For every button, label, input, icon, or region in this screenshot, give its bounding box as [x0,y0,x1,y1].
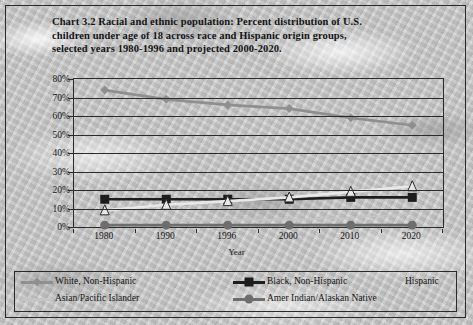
x-axis-tick-1996: 1996 [217,231,236,241]
data-point [408,193,417,202]
y-axis-tick-80pct: 80% [30,74,70,84]
y-tick-mark [68,172,73,173]
gridline [74,190,443,191]
y-axis-tick-0pct: 0% [30,222,70,232]
data-point [285,104,294,113]
chart-title-line-1: Chart 3.2 Racial and ethnic population: … [52,15,427,29]
x-tick-mark [258,229,259,233]
y-tick-mark [68,209,73,210]
x-axis-title: Year [0,247,473,257]
series-asian-pacific-islander [105,214,413,223]
data-point [346,113,355,122]
data-point [223,100,232,109]
x-tick-mark [196,229,197,233]
gridline [74,209,443,210]
data-point [100,86,109,95]
y-tick-mark [68,227,73,228]
x-tick-mark [73,229,74,233]
data-point [408,121,417,130]
data-point [100,195,109,204]
data-point [223,221,232,230]
chart-title-line-2: children under age of 18 across race and… [52,29,427,43]
y-axis-tick-30pct: 30% [30,167,70,177]
y-axis-tick-50pct: 50% [30,130,70,140]
x-axis-tick-1980: 1980 [94,231,113,241]
x-axis-tick-labels: 198019901996200020102020 [73,231,444,247]
series-white-non-hispanic [100,86,417,130]
data-point [162,95,171,104]
legend-marker-none-icon [21,293,53,305]
x-axis-tick-2010: 2010 [340,231,359,241]
gridline [74,116,443,117]
y-axis-tick-labels: 0%10%20%30%40%50%60%70%80% [30,70,70,238]
gridline [74,135,443,136]
y-axis-tick-10pct: 10% [30,204,70,214]
legend-line-swatch [21,298,53,301]
x-tick-mark [442,229,443,233]
chart-legend: White, Non-HispanicBlack, Non-HispanicHi… [14,271,457,312]
x-tick-mark [381,229,382,233]
x-tick-mark [135,229,136,233]
legend-label: Asian/Pacific Islander [55,293,139,303]
legend-label: White, Non-Hispanic [55,276,136,286]
legend-marker-diamond-icon [21,276,53,288]
data-point [285,221,294,230]
chart-title-line-3: selected years 1980-1996 and projected 2… [52,42,427,56]
plot-area [73,78,444,228]
y-axis-tick-40pct: 40% [30,148,70,158]
y-axis-tick-70pct: 70% [30,93,70,103]
y-tick-mark [68,153,73,154]
gridline [74,98,443,99]
data-point [346,221,355,230]
y-axis-tick-20pct: 20% [30,185,70,195]
legend-marker-circle-icon [233,293,265,305]
y-tick-mark [68,135,73,136]
x-tick-mark [319,229,320,233]
y-axis-tick-60pct: 60% [30,111,70,121]
x-axis-tick-2000: 2000 [279,231,298,241]
y-tick-mark [68,79,73,80]
chart-title: Chart 3.2 Racial and ethnic population: … [52,15,427,56]
y-tick-mark [68,190,73,191]
legend-label: Amer Indian/Alaskan Native [267,293,377,303]
data-point [408,221,417,230]
legend-label: Hispanic [405,276,439,286]
y-tick-mark [68,116,73,117]
gridline [74,153,443,154]
data-point [100,221,109,230]
x-axis-tick-2020: 2020 [402,231,421,241]
gridline [74,172,443,173]
y-tick-mark [68,98,73,99]
x-axis-tick-1990: 1990 [156,231,175,241]
legend-marker-square-icon [233,276,265,288]
legend-label: Black, Non-Hispanic [267,276,347,286]
data-point [162,221,171,230]
